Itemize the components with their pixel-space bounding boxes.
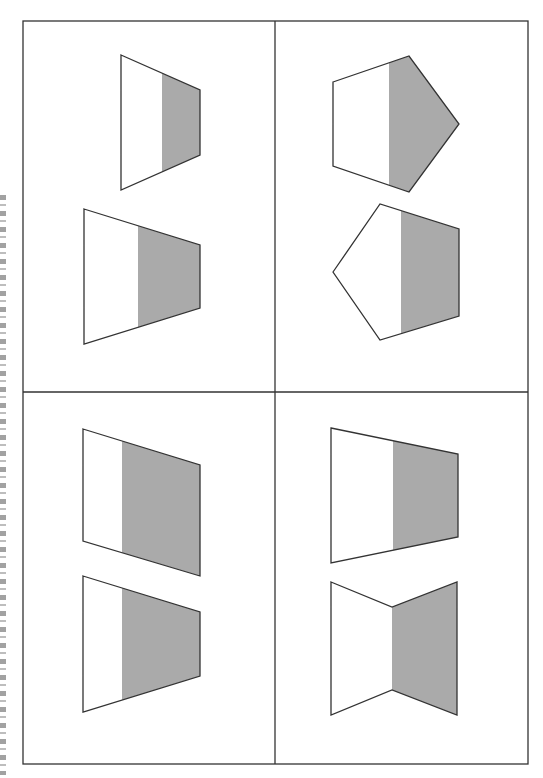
shapes-board — [0, 0, 543, 778]
